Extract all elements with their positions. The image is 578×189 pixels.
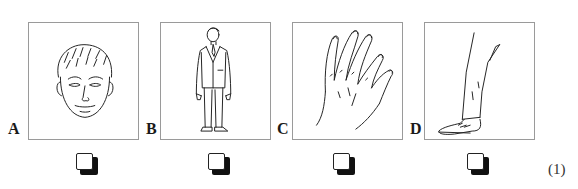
face-drawing-icon: [29, 23, 138, 139]
checkbox-face: [208, 153, 225, 170]
option-c-checkbox[interactable]: [333, 153, 355, 175]
option-c-label: C: [277, 121, 289, 137]
leg-and-shoe-drawing-icon: [425, 23, 534, 139]
option-b-label: B: [146, 121, 157, 137]
question-number: (1): [548, 161, 566, 178]
standing-man-drawing-icon: [161, 23, 270, 139]
checkbox-face: [333, 153, 350, 170]
option-c-picture-frame: [292, 22, 403, 140]
option-a-picture-frame: [28, 22, 139, 140]
hand-drawing-icon: [293, 23, 402, 139]
option-a-checkbox[interactable]: [76, 153, 98, 175]
checkbox-face: [467, 153, 484, 170]
option-d-label: D: [410, 121, 422, 137]
option-d-checkbox[interactable]: [467, 153, 489, 175]
option-b-picture-frame: [160, 22, 271, 140]
option-d-picture-frame: [424, 22, 535, 140]
checkbox-face: [76, 153, 93, 170]
option-b-checkbox[interactable]: [208, 153, 230, 175]
option-a-label: A: [8, 121, 20, 137]
